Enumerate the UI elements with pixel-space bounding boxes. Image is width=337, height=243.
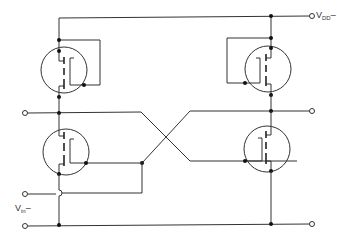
transistor-q2 <box>227 36 291 111</box>
left-output-terminal[interactable] <box>23 111 28 116</box>
vdd-label: VDD– <box>316 11 336 21</box>
vin-terminal[interactable] <box>23 192 28 197</box>
vdd-terminal[interactable] <box>310 14 315 19</box>
ground-right-terminal[interactable] <box>310 222 315 227</box>
vdd-rail <box>59 14 315 41</box>
circuit-diagram <box>0 0 337 243</box>
ground-left-terminal[interactable] <box>23 224 28 229</box>
transistor-q4 <box>243 111 290 224</box>
transistor-q3 <box>43 113 142 225</box>
vin-label: Vin– <box>15 204 31 214</box>
ground-rail <box>23 222 315 229</box>
right-output-terminal[interactable] <box>310 109 315 114</box>
transistor-q1 <box>41 38 100 113</box>
